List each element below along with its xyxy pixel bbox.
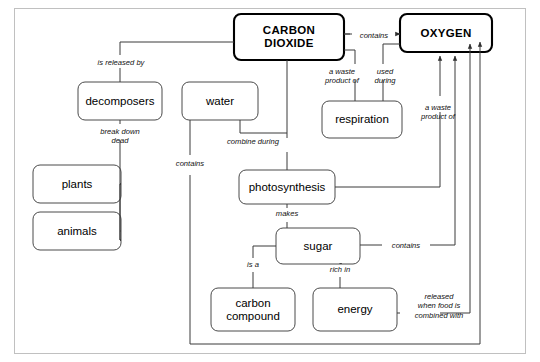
link-label-contains-water: contains <box>168 159 212 168</box>
link-label-rich-in: rich in <box>324 265 356 274</box>
node-box-carbon-dioxide <box>234 14 344 60</box>
link-label-makes: makes <box>270 209 304 218</box>
node-box-plants <box>33 165 121 203</box>
link-label-a-waste-product-of-respiration: a waste product of <box>318 67 366 86</box>
node-box-respiration <box>322 101 402 138</box>
edge-energy-to-oxygen <box>397 44 470 313</box>
link-label-a-waste-product-of-photosynthesis: a waste product of <box>414 103 462 122</box>
link-label-released-when-food-combined: released when food is combined with <box>404 292 474 320</box>
edge-water-to-photosynthesis <box>240 120 287 133</box>
concept-map-diagram: CARBONDIOXIDE OXYGEN decomposers water r… <box>0 0 540 362</box>
node-box-decomposers <box>78 82 162 120</box>
link-label-break-down-dead: break down dead <box>92 127 148 146</box>
node-box-energy <box>313 288 397 331</box>
node-box-sugar <box>276 228 360 264</box>
link-label-used-during: used during <box>368 67 402 86</box>
link-label-contains-sugar: contains <box>384 241 428 250</box>
node-box-oxygen <box>400 14 492 52</box>
link-label-combine-during: combine during <box>216 137 290 146</box>
node-box-photosynthesis <box>239 170 335 204</box>
link-label-is-a: is a <box>241 260 265 269</box>
node-box-animals <box>33 212 121 250</box>
node-box-carbon-compound <box>211 288 295 331</box>
link-label-is-released-by: is released by <box>85 58 157 67</box>
link-label-contains-co2-o2: contains <box>352 31 396 40</box>
node-box-water <box>182 82 258 120</box>
